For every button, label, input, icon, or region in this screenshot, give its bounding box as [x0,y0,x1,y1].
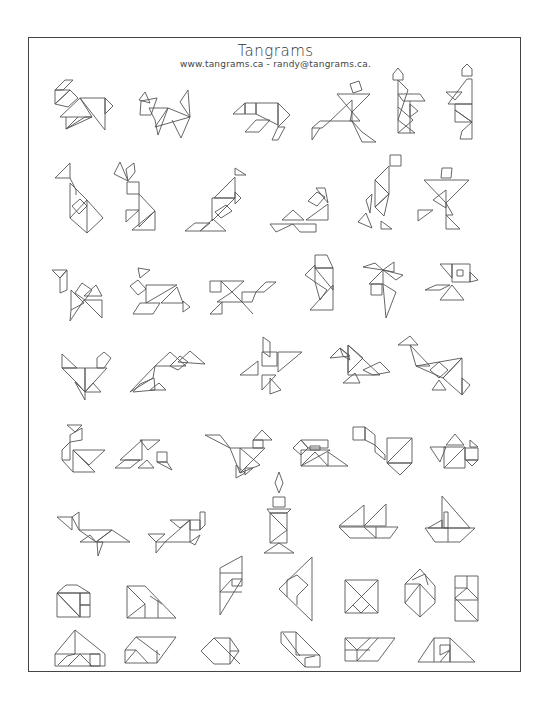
tangram-cat [139,90,190,138]
tangram-dog [55,80,113,130]
tangram-swan [62,425,105,472]
tangram-running-man [312,81,376,142]
tangram-camel [52,270,102,321]
tangram-parrot [115,440,172,470]
tangram-horse [210,281,276,314]
tangram-person-hat [393,68,425,133]
tangram-sitting-person [270,188,328,232]
tangram-windmill [240,337,302,394]
tangram-hexagon [405,569,435,617]
tangram-trapezoid-2 [418,638,475,662]
tangram-swimming-bird [330,345,390,383]
tangram-house-boat [293,440,348,466]
tangram-dancing-person [418,168,469,229]
tangram-candle [264,472,294,553]
tangram-walking-person [358,155,401,229]
tangram-fish-2 [148,512,205,553]
tangram-hen [62,352,111,400]
tangram-fish [425,264,478,300]
tangram-parallelogram-shape [220,556,242,615]
tangram-diamond-shape [279,557,312,621]
tangram-sailboat [339,504,398,538]
tangram-goose [55,163,103,233]
tangram-flying-bird [130,351,205,392]
tangram-figures [0,0,551,701]
tangram-triangle-shape [127,586,176,618]
tangram-trapezoid [55,630,105,666]
tangram-heron [398,336,470,395]
tangram-pipe [353,427,412,475]
tangram-deer [130,268,190,314]
tangram-hexagon-flat [201,638,240,664]
tangram-duck [205,430,272,478]
tangram-parallelogram [125,637,176,663]
tangram-standing-person [446,64,472,139]
tangram-teapot [430,434,478,468]
tangram-step-shape [281,632,320,667]
tangram-figure-a [305,255,333,310]
tangram-bear [233,103,290,140]
tangram-rabbit [114,162,155,230]
tangram-whale [57,512,130,556]
tangram-rectangle-wide [345,638,395,661]
tangram-house [57,585,90,617]
tangram-rectangle [455,576,478,621]
tangram-kneeling-bird [185,168,246,231]
tangram-sailboat-2 [425,496,475,542]
tangram-square [345,580,378,613]
tangram-pinwheel [363,262,403,318]
